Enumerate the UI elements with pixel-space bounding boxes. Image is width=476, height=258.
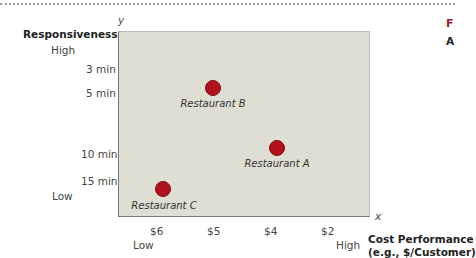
dotted-divider [0,3,455,5]
x-tick-2: $2 [321,225,334,237]
x-tick-4: $4 [264,225,277,237]
x-axis-title-line2: (e.g., $/Customer) [368,246,476,258]
cut-off-subheading-letter: A [446,35,454,47]
x-axis-letter: x [375,210,381,222]
x-high-label: High [336,239,360,251]
x-low-label: Low [133,239,154,251]
x-tick-5: $5 [207,225,220,237]
y-axis-letter: y [118,14,124,26]
cut-off-heading-letter: F [446,17,454,30]
data-point-restaurant-c [155,181,171,197]
point-label-restaurant-a: Restaurant A [244,158,309,169]
y-tick-3min: 3 min [86,63,116,75]
y-high-label: High [51,44,75,56]
y-tick-10min: 10 min [81,148,118,160]
x-tick-6: $6 [150,225,163,237]
y-low-label: Low [52,190,73,202]
point-label-restaurant-c: Restaurant C [131,200,196,211]
point-label-restaurant-b: Restaurant B [180,98,245,109]
y-tick-15min: 15 min [81,175,118,187]
y-tick-5min: 5 min [86,87,116,99]
data-point-restaurant-b [205,80,221,96]
data-point-restaurant-a [269,140,285,156]
x-axis-title-line1: Cost Performance [368,233,474,245]
y-axis-title: Responsiveness [23,28,118,40]
